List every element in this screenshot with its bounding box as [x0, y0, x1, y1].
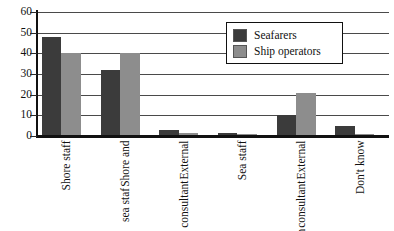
y-tick-0: [30, 136, 37, 137]
legend-item-1: Seafarers: [233, 27, 337, 43]
y-tick-label-0: 0: [4, 130, 32, 142]
chart-legend: SeafarersShip operators: [226, 22, 343, 64]
y-tick-50: [30, 33, 37, 34]
legend-swatch-icon-1: [233, 29, 247, 42]
x-category-label-3-line-2: consultant: [177, 180, 190, 228]
x-category-label-1: Shore staff: [37, 138, 96, 231]
bar-chart: 0102030405060 SeafarersShip operators Sh…: [0, 0, 394, 231]
legend-label-2: Ship operators: [254, 45, 321, 57]
x-category-label-5-line-1: External: [295, 140, 308, 180]
y-axis-labels: 0102030405060: [0, 0, 32, 231]
x-category-label-6: Don't know: [330, 138, 389, 231]
y-tick-10: [30, 115, 37, 116]
x-axis-labels: Shore staffShore andsea stafExternalcons…: [37, 138, 389, 231]
x-category-label-5-line-2: consultant: [295, 180, 308, 228]
x-category-label-3-line-1: External: [177, 140, 190, 180]
y-tick-60: [30, 12, 37, 13]
y-tick-label-30: 30: [4, 68, 32, 80]
y-tick-label-10: 10: [4, 109, 32, 121]
x-category-label-2-line-2: sea staf: [119, 187, 132, 222]
legend-swatch-icon-2: [233, 45, 247, 58]
bar-2-1: [61, 53, 81, 136]
x-category-label-5: Externalconsultantand ownstaff: [272, 138, 331, 231]
x-category-label-4-line-1: Sea staff: [236, 140, 249, 181]
y-tick-label-60: 60: [4, 6, 32, 18]
y-tick-40: [30, 53, 37, 54]
x-category-label-2-line-1: Shore and: [119, 140, 132, 187]
y-tick-20: [30, 95, 37, 96]
y-tick-label-50: 50: [4, 27, 32, 39]
x-category-label-5-line-3: and own: [295, 228, 308, 231]
x-category-label-6-line-1: Don't know: [353, 140, 366, 195]
bar-1-1: [42, 37, 62, 136]
x-category-label-2: Shore andsea staf: [96, 138, 155, 231]
bar-1-2: [101, 70, 121, 136]
bar-2-5: [296, 93, 316, 136]
x-category-label-3: Externalconsultant: [154, 138, 213, 231]
y-tick-30: [30, 74, 37, 75]
x-category-label-1-line-1: Shore staff: [60, 140, 73, 191]
x-category-label-4: Sea staff: [213, 138, 272, 231]
bar-2-2: [120, 53, 140, 136]
legend-label-1: Seafarers: [254, 29, 297, 41]
y-tick-label-20: 20: [4, 89, 32, 101]
bar-1-5: [277, 115, 297, 136]
legend-item-2: Ship operators: [233, 43, 337, 59]
y-tick-label-40: 40: [4, 47, 32, 59]
